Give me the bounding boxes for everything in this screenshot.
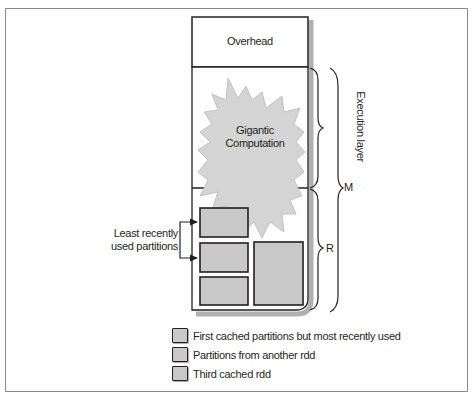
legend-item: Partitions from another rdd <box>172 347 315 362</box>
legend-item: First cached partitions but most recentl… <box>172 328 401 343</box>
m-label: M <box>344 181 353 194</box>
computation-label: Gigantic Computation <box>215 124 295 150</box>
legend-swatch <box>172 366 188 381</box>
legend-label: Partitions from another rdd <box>193 349 315 361</box>
execution-layer-label: Execution layer <box>354 87 367 167</box>
lru-label: Least recently used partitions <box>100 227 178 253</box>
m-brace <box>330 68 343 312</box>
computation-label-line1: Gigantic <box>215 124 295 137</box>
legend-item: Third cached rdd <box>172 366 271 381</box>
computation-label-line2: Computation <box>215 137 295 150</box>
partition-box-3 <box>200 277 248 305</box>
lru-label-line2: used partitions <box>100 240 178 253</box>
legend-swatch <box>172 347 188 362</box>
lru-label-line1: Least recently <box>100 227 178 240</box>
r-label: R <box>326 242 334 255</box>
partition-box-large <box>254 242 303 305</box>
partition-box-lru-1 <box>200 208 248 237</box>
partition-box-lru-2 <box>200 243 248 272</box>
overhead-label: Overhead <box>192 35 308 48</box>
legend-label: Third cached rdd <box>193 368 271 380</box>
legend-swatch <box>172 328 188 343</box>
legend-label: First cached partitions but most recentl… <box>193 330 401 342</box>
